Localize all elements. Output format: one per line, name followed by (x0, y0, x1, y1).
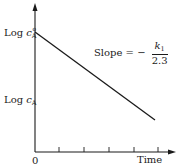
slope-numerator-sub: 1 (161, 45, 165, 53)
y-axis-arrow-icon (33, 3, 38, 11)
y-label-current-sub: A (32, 99, 37, 107)
y-label-initial-sup: o (33, 25, 37, 32)
y-label-initial-sub: A (32, 32, 37, 40)
x-ticks (59, 147, 158, 152)
slope-annotation: Slope = − k1 2.3 (94, 41, 168, 66)
y-label-initial: Log cAo (4, 26, 36, 40)
slope-fraction: k1 2.3 (152, 41, 168, 66)
x-axis-label: Time (137, 155, 162, 165)
origin-label: 0 (32, 156, 38, 166)
y-label-initial-prefix: Log (4, 27, 26, 38)
slope-numerator: k1 (152, 41, 168, 55)
y-label-current-prefix: Log (4, 94, 26, 105)
slope-denominator: 2.3 (152, 55, 168, 66)
slope-text: Slope = − (94, 47, 146, 58)
y-label-current: Log cA (4, 95, 37, 107)
x-axis-arrow-icon (168, 150, 176, 155)
